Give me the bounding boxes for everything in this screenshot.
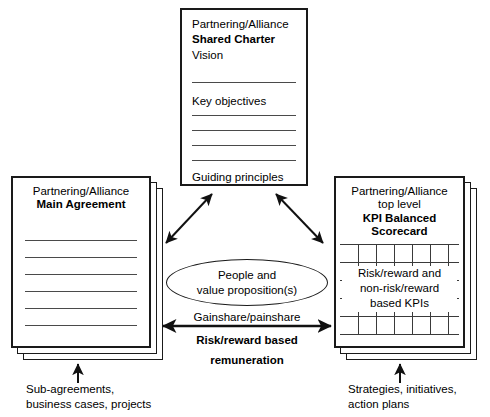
kpi-body-line-2: non-risk/reward: [342, 281, 457, 296]
main-agreement-org-label: Partnering/Alliance: [13, 185, 149, 198]
kpi-grid-row-6: [340, 334, 459, 335]
main-agreement-rule-1: [25, 240, 137, 241]
people-value-proposition-ellipse: People and value proposition(s): [166, 259, 328, 306]
main-agreement-rule-2: [25, 257, 137, 258]
charter-rule-2: [192, 115, 296, 116]
sub-agreements-caption-line-2: business cases, projects: [26, 397, 151, 412]
arrow-charter-to-kpi-scorecard: [276, 194, 323, 243]
sub-agreements-caption: Sub-agreements, business cases, projects: [26, 382, 151, 413]
ellipse-line-1: People and: [197, 268, 297, 282]
charter-vision-label: Vision: [192, 48, 223, 63]
ellipse-text: People and value proposition(s): [197, 268, 297, 296]
charter-title: Shared Charter: [192, 32, 275, 47]
main-agreement-rule-3: [25, 274, 137, 275]
kpi-body-line-3: based KPIs: [342, 296, 457, 311]
main-agreement-box: Partnering/Alliance Main Agreement: [11, 176, 151, 348]
charter-key-objectives-label: Key objectives: [192, 94, 266, 109]
kpi-scorecard-org-label: Partnering/Alliance: [336, 185, 463, 198]
charter-guiding-principles-label: Guiding principles: [192, 170, 283, 185]
shared-charter-box: Partnering/Alliance Shared Charter Visio…: [180, 8, 308, 186]
gainshare-painshare-label: Gainshare/painshare: [163, 310, 331, 325]
sub-agreements-caption-line-1: Sub-agreements,: [26, 382, 151, 397]
kpi-scorecard-body-text: Risk/reward and non-risk/reward based KP…: [342, 266, 457, 312]
diagram-canvas: Partnering/Alliance Shared Charter Visio…: [0, 0, 490, 417]
charter-rule-4: [192, 145, 296, 146]
main-agreement-title: Main Agreement: [13, 198, 149, 211]
kpi-scorecard-title-line2: Scorecard: [336, 225, 463, 238]
main-agreement-rule-6: [25, 325, 137, 326]
strategies-caption: Strategies, initiatives, action plans: [348, 382, 457, 413]
kpi-body-line-1: Risk/reward and: [342, 266, 457, 281]
main-agreement-rule-4: [25, 291, 137, 292]
strategies-caption-line-1: Strategies, initiatives,: [348, 382, 457, 397]
charter-rule-3: [192, 130, 296, 131]
main-agreement-rule-5: [25, 308, 137, 309]
kpi-scorecard-sub-label: top level: [336, 198, 463, 211]
charter-rule-1: [192, 82, 296, 83]
main-agreement-heading: Partnering/Alliance Main Agreement: [13, 178, 149, 212]
kpi-scorecard-title-line1: KPI Balanced: [336, 212, 463, 225]
kpi-scorecard-box: Partnering/Alliance top level KPI Balanc…: [334, 176, 465, 348]
charter-rule-5: [192, 160, 296, 161]
ellipse-line-2: value proposition(s): [197, 283, 297, 297]
charter-org-label: Partnering/Alliance: [192, 17, 289, 32]
risk-reward-based-label: Risk/reward based: [163, 333, 331, 348]
remuneration-label: remuneration: [163, 353, 331, 368]
arrow-charter-to-main-agreement: [166, 194, 212, 243]
strategies-caption-line-2: action plans: [348, 397, 457, 412]
kpi-scorecard-heading: Partnering/Alliance top level KPI Balanc…: [336, 178, 463, 238]
